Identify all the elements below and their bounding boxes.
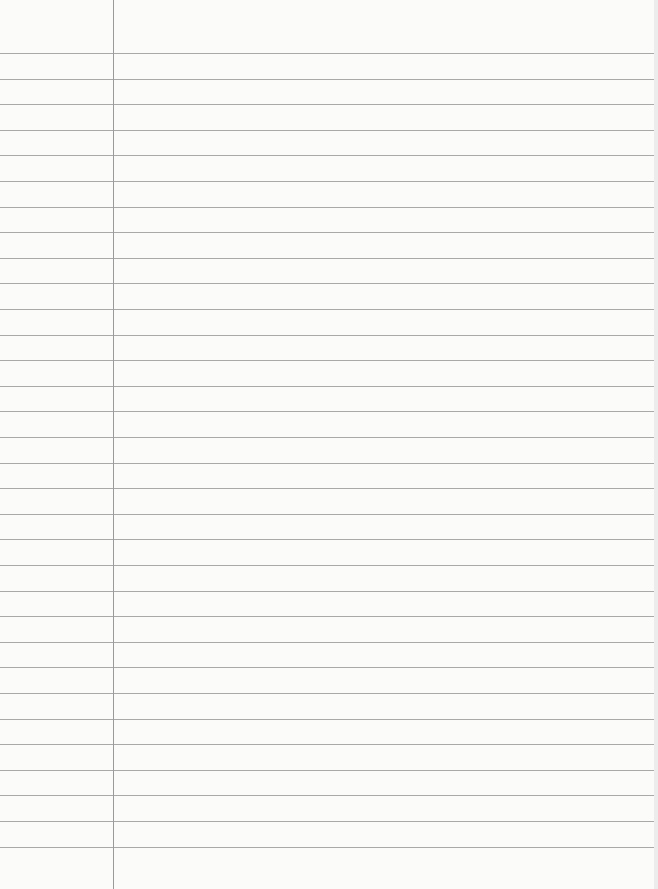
ruled-line <box>0 386 658 387</box>
ruled-line <box>0 795 658 796</box>
ruled-line <box>0 642 658 643</box>
ruled-line <box>0 130 658 131</box>
ruled-line <box>0 207 658 208</box>
ruled-line <box>0 744 658 745</box>
ruled-line <box>0 463 658 464</box>
ruled-line <box>0 565 658 566</box>
lined-paper <box>0 0 658 889</box>
ruled-line <box>0 155 658 156</box>
ruled-line <box>0 283 658 284</box>
margin-line <box>113 0 114 889</box>
ruled-line <box>0 258 658 259</box>
paper-edge <box>654 0 658 889</box>
ruled-line <box>0 79 658 80</box>
ruled-line <box>0 719 658 720</box>
ruled-line <box>0 53 658 54</box>
ruled-line <box>0 514 658 515</box>
ruled-line <box>0 770 658 771</box>
ruled-line <box>0 437 658 438</box>
ruled-line <box>0 693 658 694</box>
ruled-line <box>0 232 658 233</box>
ruled-line <box>0 616 658 617</box>
ruled-line <box>0 591 658 592</box>
ruled-line <box>0 539 658 540</box>
ruled-line <box>0 335 658 336</box>
ruled-line <box>0 104 658 105</box>
ruled-line <box>0 667 658 668</box>
ruled-line <box>0 181 658 182</box>
ruled-line <box>0 360 658 361</box>
ruled-line <box>0 488 658 489</box>
ruled-line <box>0 309 658 310</box>
ruled-line <box>0 411 658 412</box>
ruled-line <box>0 847 658 848</box>
ruled-line <box>0 821 658 822</box>
